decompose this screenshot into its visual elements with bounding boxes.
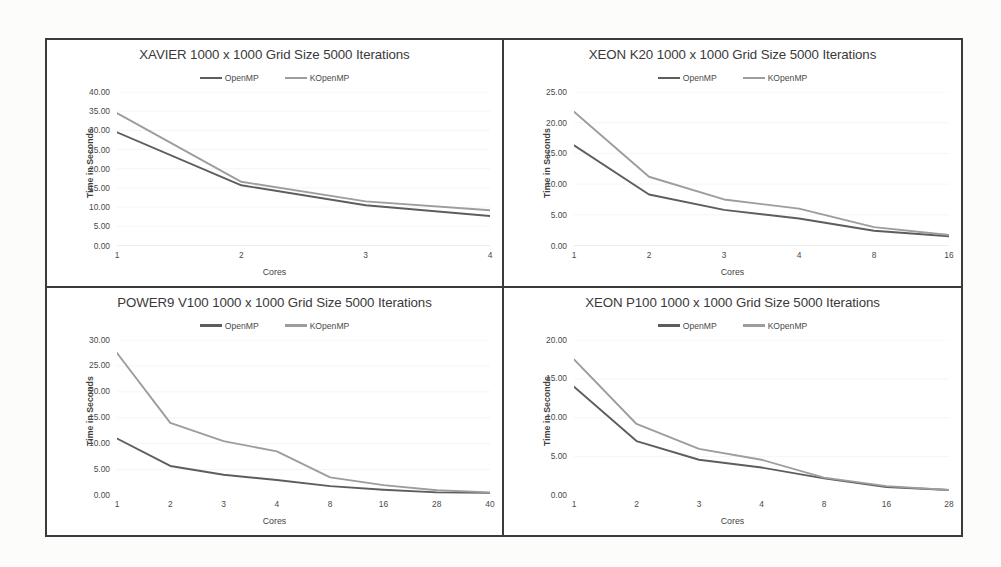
x-tick-label: 4 xyxy=(488,250,493,260)
y-tick-label: 30.00 xyxy=(89,335,110,345)
chart-svg xyxy=(574,340,949,496)
y-tick-label: 0.00 xyxy=(551,490,567,500)
y-tick-label: 15.00 xyxy=(546,373,567,383)
plot-wrap: 0.005.0010.0015.0020.0025.00 1234816 xyxy=(534,92,951,246)
x-axis-label: Cores xyxy=(47,516,502,526)
series-line-openmp xyxy=(117,438,490,492)
plot-wrap: 0.005.0010.0015.0020.0025.0030.00 123481… xyxy=(77,340,492,496)
y-tick-label: 10.00 xyxy=(546,179,567,189)
legend-line-icon xyxy=(200,324,222,326)
plot-area xyxy=(574,92,949,246)
x-tick-label: 2 xyxy=(634,499,639,509)
y-tick-label: 15.00 xyxy=(89,412,110,422)
x-tick-label: 2 xyxy=(239,250,244,260)
y-axis-ticks: 0.005.0010.0015.0020.0025.0030.00 xyxy=(77,340,113,496)
y-tick-label: 40.00 xyxy=(89,87,110,97)
plot-area xyxy=(117,340,490,496)
y-tick-label: 15.00 xyxy=(89,183,110,193)
x-tick-label: 16 xyxy=(379,499,388,509)
y-axis-ticks: 0.005.0010.0015.0020.0025.00 xyxy=(534,92,570,246)
y-tick-label: 35.00 xyxy=(89,106,110,116)
legend-line-icon xyxy=(743,324,765,326)
y-tick-label: 10.00 xyxy=(89,438,110,448)
y-tick-label: 0.00 xyxy=(94,490,110,500)
x-tick-label: 3 xyxy=(722,250,727,260)
legend-label: OpenMP xyxy=(683,321,717,331)
x-tick-label: 28 xyxy=(944,499,953,509)
chart-panel-xeon-k20: XEON K20 1000 x 1000 Grid Size 5000 Iter… xyxy=(504,40,961,288)
series-line-kopenmp xyxy=(117,352,490,491)
x-axis-label: Cores xyxy=(47,267,502,277)
x-tick-label: 1 xyxy=(115,250,120,260)
legend-entry-kopenmp: KOpenMP xyxy=(285,321,350,331)
x-tick-label: 40 xyxy=(485,499,494,509)
y-tick-label: 20.00 xyxy=(546,335,567,345)
y-tick-label: 20.00 xyxy=(89,164,110,174)
x-tick-label: 16 xyxy=(882,499,891,509)
x-tick-label: 3 xyxy=(221,499,226,509)
x-axis-ticks: 1234 xyxy=(117,246,490,266)
plot-area xyxy=(117,92,490,246)
legend-line-icon xyxy=(743,77,765,79)
series-line-openmp xyxy=(574,145,949,236)
x-tick-label: 4 xyxy=(275,499,280,509)
x-tick-label: 8 xyxy=(328,499,333,509)
legend-label: KOpenMP xyxy=(768,321,808,331)
series-line-kopenmp xyxy=(574,112,949,235)
legend-entry-openmp: OpenMP xyxy=(200,321,259,331)
y-tick-label: 5.00 xyxy=(551,451,567,461)
chart-panel-xavier: XAVIER 1000 x 1000 Grid Size 5000 Iterat… xyxy=(47,40,504,288)
x-axis-ticks: 12348162840 xyxy=(117,495,490,515)
plot-wrap: 0.005.0010.0015.0020.0025.0030.0035.0040… xyxy=(77,92,492,246)
y-tick-label: 30.00 xyxy=(89,125,110,135)
chart-panel-xeon-p100: XEON P100 1000 x 1000 Grid Size 5000 Ite… xyxy=(504,288,961,536)
chart-svg xyxy=(574,92,949,246)
legend-line-icon xyxy=(200,77,222,79)
x-tick-label: 16 xyxy=(944,250,953,260)
legend-label: OpenMP xyxy=(225,321,259,331)
y-tick-label: 20.00 xyxy=(89,386,110,396)
x-axis-label: Cores xyxy=(504,516,961,526)
x-tick-label: 1 xyxy=(115,499,120,509)
legend-entry-kopenmp: KOpenMP xyxy=(285,73,350,83)
legend-label: KOpenMP xyxy=(768,73,808,83)
y-tick-label: 15.00 xyxy=(546,148,567,158)
x-tick-label: 2 xyxy=(168,499,173,509)
legend-entry-openmp: OpenMP xyxy=(200,73,259,83)
chart-legend: OpenMP KOpenMP xyxy=(504,73,961,83)
x-tick-label: 4 xyxy=(759,499,764,509)
plot-area xyxy=(574,340,949,496)
x-axis-label: Cores xyxy=(504,267,961,277)
x-tick-label: 8 xyxy=(872,250,877,260)
legend-line-icon xyxy=(285,324,307,326)
legend-label: KOpenMP xyxy=(310,73,350,83)
x-tick-label: 3 xyxy=(697,499,702,509)
chart-svg xyxy=(117,92,490,246)
chart-panel-power9-v100: POWER9 V100 1000 x 1000 Grid Size 5000 I… xyxy=(47,288,504,536)
y-tick-label: 20.00 xyxy=(546,118,567,128)
chart-title: XAVIER 1000 x 1000 Grid Size 5000 Iterat… xyxy=(47,47,502,62)
y-tick-label: 5.00 xyxy=(94,221,110,231)
series-line-openmp xyxy=(574,386,949,489)
legend-line-icon xyxy=(285,77,307,79)
chart-title: XEON P100 1000 x 1000 Grid Size 5000 Ite… xyxy=(504,295,961,310)
x-tick-label: 4 xyxy=(797,250,802,260)
y-tick-label: 10.00 xyxy=(89,202,110,212)
y-tick-label: 25.00 xyxy=(89,145,110,155)
x-tick-label: 8 xyxy=(822,499,827,509)
y-tick-label: 5.00 xyxy=(94,464,110,474)
chart-legend: OpenMP KOpenMP xyxy=(504,321,961,331)
x-axis-ticks: 123481628 xyxy=(574,495,949,515)
y-axis-ticks: 0.005.0010.0015.0020.00 xyxy=(534,340,570,496)
legend-label: OpenMP xyxy=(683,73,717,83)
y-tick-label: 0.00 xyxy=(551,241,567,251)
chart-legend: OpenMP KOpenMP xyxy=(47,321,502,331)
x-tick-label: 1 xyxy=(572,499,577,509)
legend-label: OpenMP xyxy=(225,73,259,83)
legend-entry-openmp: OpenMP xyxy=(658,73,717,83)
legend-line-icon xyxy=(658,324,680,326)
legend-entry-kopenmp: KOpenMP xyxy=(743,73,808,83)
chart-title: POWER9 V100 1000 x 1000 Grid Size 5000 I… xyxy=(47,295,502,310)
y-tick-label: 5.00 xyxy=(551,210,567,220)
legend-entry-openmp: OpenMP xyxy=(658,321,717,331)
